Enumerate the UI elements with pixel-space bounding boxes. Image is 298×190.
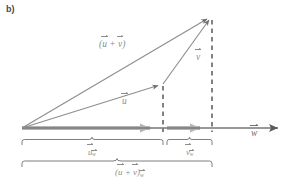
label-u-projection: uw (88, 148, 96, 158)
label-v-vector: v (196, 53, 200, 63)
vector-v-arrow (163, 20, 209, 84)
v-glyph: v (196, 53, 200, 63)
sum-proj-v-glyph: v (133, 168, 137, 177)
paren-close: ) (122, 39, 125, 49)
v-proj-subscript: w (190, 152, 194, 157)
w-glyph: w (251, 129, 257, 139)
vector-projection-diagram: b) (u + v) u v w uw vw (u + v)w (0, 0, 298, 190)
label-v-projection: vw (186, 148, 193, 158)
vector-sum-arrow (22, 19, 207, 128)
u-proj-subscript: w (92, 152, 96, 157)
vector-u-arrow (22, 86, 158, 129)
label-w-vector: w (251, 129, 257, 139)
sum-proj-plus: + (123, 167, 134, 177)
sum-proj-subscript: w (140, 173, 144, 179)
brace-sum-projection (22, 159, 212, 167)
panel-label: b) (6, 4, 15, 14)
label-u-vector: u (122, 97, 127, 107)
label-sum-projection: (u + v)w (115, 168, 144, 178)
sum-proj-u-glyph: u (118, 168, 123, 177)
label-sum-vector: (u + v) (99, 40, 125, 50)
plus-sign: + (107, 39, 118, 49)
u-glyph: u (122, 97, 127, 107)
diagram-canvas (0, 0, 298, 190)
label-u-glyph: u (102, 40, 107, 50)
label-v-glyph: v (118, 40, 122, 50)
